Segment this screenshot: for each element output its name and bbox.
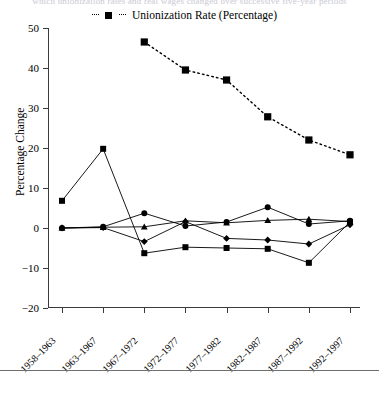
data-point-square [264,113,271,120]
y-tick-label: 50 [28,23,39,34]
y-tick-label: −20 [22,303,39,314]
x-tick-label: 1967–1972 [100,335,140,375]
x-tick [62,308,63,313]
x-tick [103,308,104,313]
data-point-square [223,76,230,83]
y-axis-title: Percentage Change [14,108,26,196]
legend-marker-unionization-rate [92,10,126,20]
chart-root: which unionization rates and real wages … [0,0,379,393]
x-tick-label: 1963–1967 [59,335,99,375]
data-point-circle [265,204,271,210]
data-point-square [182,244,188,250]
x-tick [350,308,351,313]
x-tick-label: 1992–1997 [306,335,346,375]
data-point-diamond [264,237,271,244]
y-tick-label: 40 [28,63,39,74]
x-tick-label: 1958–1963 [18,335,58,375]
x-tick-label: 1972–1977 [142,335,182,375]
data-point-square [305,136,312,143]
y-tick-label: 10 [28,183,39,194]
y-tick-label: −10 [22,263,39,274]
legend-label-unionization-rate: Unionization Rate (Percentage) [132,9,277,21]
data-point-diamond [223,235,230,242]
x-tick-label: 1987–1992 [265,335,305,375]
data-point-circle [141,210,147,216]
y-tick-label: 0 [34,223,40,234]
data-point-square [346,151,353,158]
data-point-diamond [182,218,189,225]
y-tick [43,308,48,309]
data-point-square [59,198,65,204]
x-tick [227,308,228,313]
x-tick [309,308,310,313]
data-point-diamond [305,241,312,248]
x-tick [268,308,269,313]
series-layer [48,28,360,308]
x-tick-label: 1982–1987 [224,335,264,375]
data-point-square [141,250,147,256]
plot-area: −20−1001020304050 1958–19631963–19671967… [48,28,360,308]
x-tick [144,308,145,313]
data-point-diamond [141,238,148,245]
y-tick-label: 20 [28,143,39,154]
data-point-square [100,146,106,152]
data-point-square [224,245,230,251]
cutoff-caption: which unionization rates and real wages … [0,0,379,9]
data-point-square [265,246,271,252]
data-point-square [141,38,148,45]
y-tick-label: 30 [28,103,39,114]
chart-legend: Unionization Rate (Percentage) [92,9,277,21]
series-square [59,146,353,266]
data-point-square [182,66,189,73]
series-square-dotted [141,38,354,158]
bottom-rule [0,370,379,371]
data-point-square [306,260,312,266]
cutoff-caption-text: which unionization rates and real wages … [32,0,347,6]
x-tick [185,308,186,313]
x-tick-label: 1977–1982 [183,335,223,375]
